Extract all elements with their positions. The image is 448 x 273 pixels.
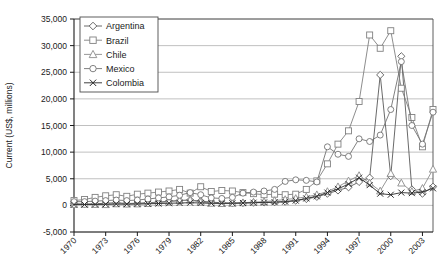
data-point-circle — [272, 186, 278, 192]
y-axis-title: Current (US$, millions) — [4, 82, 14, 168]
legend-label: Colombia — [106, 78, 144, 88]
data-point-square — [346, 128, 352, 134]
data-point-circle — [377, 132, 383, 138]
data-point-square — [335, 141, 341, 147]
data-point-square — [177, 186, 183, 192]
y-tick-label: 30,000 — [41, 41, 67, 51]
data-point-circle — [92, 198, 98, 204]
line-chart: -5,00005,00010,00015,00020,00025,00030,0… — [0, 0, 448, 273]
data-point-circle — [208, 195, 214, 201]
data-point-circle — [155, 195, 161, 201]
data-point-circle — [367, 138, 373, 144]
y-tick-label: 20,000 — [41, 94, 67, 104]
data-point-circle — [229, 194, 235, 200]
y-tick-label: 10,000 — [41, 147, 67, 157]
data-point-circle — [282, 178, 288, 184]
data-point-circle — [346, 153, 352, 159]
data-point-circle — [198, 192, 204, 198]
legend-entry-argentina[interactable]: Argentina — [84, 21, 145, 31]
data-point-circle — [303, 177, 309, 183]
data-point-square — [90, 37, 96, 43]
data-point-square — [145, 190, 151, 196]
y-tick-label: 15,000 — [41, 121, 67, 131]
data-point-circle — [240, 190, 246, 196]
data-point-circle — [261, 188, 267, 194]
data-point-square — [324, 161, 330, 167]
data-point-circle — [398, 59, 404, 65]
data-point-square — [303, 186, 309, 192]
data-point-circle — [314, 179, 320, 185]
legend-label: Argentina — [106, 21, 145, 31]
y-tick-label: 25,000 — [41, 67, 67, 77]
y-tick-label: 5,000 — [46, 174, 68, 184]
data-point-circle — [335, 151, 341, 157]
legend: ArgentinaBrazilChileMexicoColombia — [80, 17, 158, 92]
data-point-circle — [177, 192, 183, 198]
data-point-square — [219, 187, 225, 193]
data-point-square — [155, 189, 161, 195]
data-point-square — [166, 188, 172, 194]
data-point-circle — [90, 65, 96, 71]
data-point-circle — [419, 141, 425, 147]
y-tick-label: 35,000 — [41, 14, 67, 24]
data-point-circle — [71, 199, 77, 205]
data-point-circle — [82, 199, 88, 205]
y-tick-label: 0 — [62, 200, 67, 210]
data-point-square — [134, 191, 140, 197]
data-point-square — [198, 184, 204, 190]
data-point-square — [377, 45, 383, 51]
data-point-square — [398, 85, 404, 91]
data-point-circle — [187, 190, 193, 196]
legend-label: Mexico — [106, 64, 135, 74]
data-point-square — [208, 189, 214, 195]
data-point-circle — [166, 194, 172, 200]
y-tick-label: -5,000 — [43, 227, 67, 237]
data-point-circle — [430, 109, 436, 115]
data-point-square — [367, 32, 373, 38]
data-point-square — [388, 28, 394, 34]
legend-label: Brazil — [106, 36, 129, 46]
data-point-circle — [324, 144, 330, 150]
data-point-circle — [388, 107, 394, 113]
legend-label: Chile — [106, 50, 127, 60]
data-point-circle — [356, 136, 362, 142]
data-point-square — [229, 188, 235, 194]
data-point-circle — [409, 123, 415, 129]
data-point-square — [356, 99, 362, 105]
chart-figure: -5,00005,00010,00015,00020,00025,00030,0… — [0, 0, 448, 273]
data-point-circle — [293, 177, 299, 183]
data-point-circle — [251, 189, 257, 195]
